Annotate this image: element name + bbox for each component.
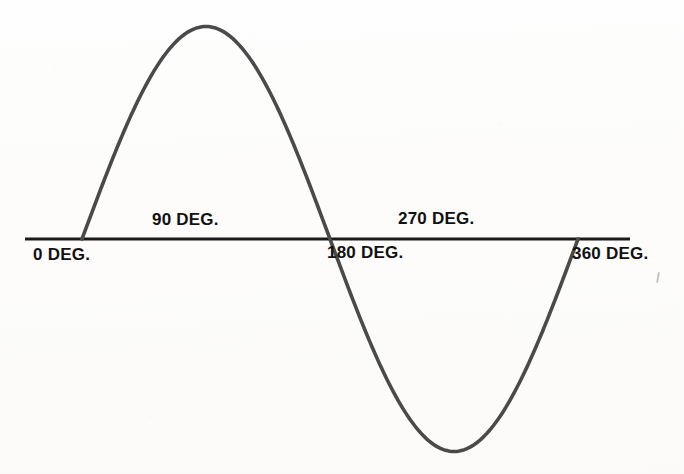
axis-label-270-deg-number: 270: [398, 209, 427, 228]
axis-label-180-deg: 180 DEG.: [327, 244, 403, 261]
axis-label-180-deg-number: 180: [327, 243, 356, 262]
axis-label-0-deg-unit: DEG.: [48, 245, 90, 264]
axis-label-90-deg-unit: DEG.: [176, 210, 218, 229]
axis-label-360-deg-number: 360: [572, 244, 601, 263]
axis-label-0-deg: 0 DEG.: [33, 246, 90, 263]
axis-label-360-deg-unit: DEG.: [606, 244, 648, 263]
sine-wave-plot: [0, 0, 684, 474]
axis-label-0-deg-number: 0: [33, 245, 43, 264]
axis-label-270-deg-unit: DEG.: [432, 209, 474, 228]
axis-label-90-deg: 90 DEG.: [152, 211, 219, 228]
axis-label-360-deg: 360 DEG.: [572, 245, 648, 262]
axis-label-270-deg: 270 DEG.: [398, 210, 474, 227]
axis-label-90-deg-number: 90: [152, 210, 171, 229]
axis-label-180-deg-unit: DEG.: [361, 243, 403, 262]
sine-wave-figure: 0 DEG. 90 DEG. 180 DEG. 270 DEG. 360 DEG…: [0, 0, 684, 474]
